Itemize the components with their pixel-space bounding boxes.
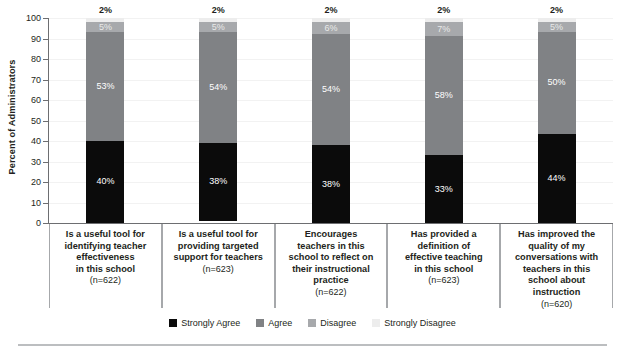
category-label-line: school to reflect on: [279, 252, 384, 264]
bar-segment[interactable]: 44%: [538, 134, 576, 223]
y-tick-label: 40: [31, 136, 41, 146]
y-tick-label: 60: [31, 95, 41, 105]
bar-segment[interactable]: 53%: [86, 32, 124, 141]
category-label-line: their instructional: [279, 264, 384, 276]
category-sample-size: (n=622): [53, 275, 158, 287]
category-label-line: practice: [279, 275, 384, 287]
bar-segment-label: 5%: [550, 23, 563, 32]
category-label-line: Is a useful tool for: [53, 229, 158, 241]
bar-segment-label: 40%: [96, 177, 114, 186]
bar-segment[interactable]: 54%: [312, 34, 350, 145]
y-tick-mark: [43, 203, 48, 204]
bar-segment-label: 2%: [437, 5, 450, 15]
y-tick-mark: [43, 223, 48, 224]
category-label-cell: Has provided adefinition ofeffective tea…: [387, 224, 500, 308]
legend-item[interactable]: Disagree: [308, 318, 356, 328]
category-label-line: in this school: [391, 264, 496, 276]
bar-segment-label: 2%: [99, 5, 112, 15]
bar-segment-label: 44%: [548, 174, 566, 183]
bar-segment-label: 38%: [322, 180, 340, 189]
stacked-bar[interactable]: 2%6%54%38%: [312, 18, 350, 223]
bar-segment-label: 38%: [209, 177, 227, 186]
category-label-line: Has provided a: [391, 229, 496, 241]
bar-segment-label: 6%: [324, 24, 337, 33]
bar-group: 2%5%53%40%: [49, 18, 162, 223]
chart-legend: Strongly AgreeAgreeDisagreeStrongly Disa…: [0, 318, 625, 328]
bar-segment[interactable]: 7%: [425, 22, 463, 36]
stacked-bar[interactable]: 2%5%54%38%: [199, 18, 237, 223]
category-label-line: Has improved the: [504, 229, 609, 241]
category-label-line: teachers in this: [279, 241, 384, 253]
bar-segment[interactable]: 38%: [199, 143, 237, 221]
bar-segment-label: 5%: [99, 23, 112, 32]
category-label-line: Is a useful tool for: [166, 229, 271, 241]
legend-swatch-icon: [256, 319, 264, 327]
y-tick-mark: [43, 121, 48, 122]
category-label-line: identifying teacher: [53, 241, 158, 253]
legend-item[interactable]: Strongly Disagree: [372, 318, 456, 328]
bar-segment-label: 54%: [322, 85, 340, 94]
category-sample-size: (n=620): [504, 299, 609, 311]
bar-segment[interactable]: 50%: [538, 32, 576, 134]
y-tick-mark: [43, 182, 48, 183]
bar-segment[interactable]: 40%: [86, 141, 124, 223]
legend-swatch-icon: [169, 319, 177, 327]
category-label-line: effective teaching: [391, 252, 496, 264]
bar-segment-label: 5%: [212, 23, 225, 32]
category-label-line: teachers in this: [504, 264, 609, 276]
bar-segment[interactable]: 54%: [199, 32, 237, 143]
category-label-cell: Has improved thequality of myconversatio…: [500, 224, 613, 308]
bar-segment[interactable]: 5%: [538, 22, 576, 32]
legend-item[interactable]: Agree: [256, 318, 292, 328]
y-tick-label: 30: [31, 157, 41, 167]
y-tick-mark: [43, 141, 48, 142]
bar-group: 2%5%50%44%: [500, 18, 613, 223]
category-sample-size: (n=622): [279, 287, 384, 299]
y-tick-label: 50: [31, 116, 41, 126]
bar-group: 2%7%58%33%: [387, 18, 500, 223]
y-tick-mark: [43, 59, 48, 60]
bar-segment[interactable]: 58%: [425, 36, 463, 155]
y-tick-mark: [43, 80, 48, 81]
legend-label: Strongly Agree: [181, 318, 240, 328]
y-tick-label: 70: [31, 75, 41, 85]
category-label-cell: Is a useful tool forproviding targetedsu…: [162, 224, 275, 308]
y-tick-mark: [43, 18, 48, 19]
stacked-bar-chart: Percent of Administrators 01020304050607…: [0, 0, 625, 356]
bar-segment[interactable]: 5%: [86, 22, 124, 32]
stacked-bar[interactable]: 2%5%50%44%: [538, 18, 576, 223]
category-sample-size: (n=623): [166, 264, 271, 276]
category-label-line: effectiveness: [53, 252, 158, 264]
y-tick-label: 90: [31, 34, 41, 44]
legend-item[interactable]: Strongly Agree: [169, 318, 240, 328]
category-label-line: in this school: [53, 264, 158, 276]
bar-group: 2%6%54%38%: [275, 18, 388, 223]
category-label-line: quality of my: [504, 241, 609, 253]
bar-segment-label: 58%: [435, 91, 453, 100]
category-label-cell: Encouragesteachers in thisschool to refl…: [275, 224, 388, 308]
category-label-line: instruction: [504, 287, 609, 299]
y-tick-label: 0: [36, 218, 41, 228]
category-label-line: conversations with: [504, 252, 609, 264]
category-labels: Is a useful tool foridentifying teachere…: [49, 224, 613, 308]
category-label-cell: Is a useful tool foridentifying teachere…: [49, 224, 162, 308]
stacked-bar[interactable]: 2%7%58%33%: [425, 18, 463, 223]
legend-swatch-icon: [372, 319, 380, 327]
bar-segment[interactable]: 5%: [199, 22, 237, 32]
bar-segment-label: 7%: [437, 25, 450, 34]
bar-segment[interactable]: 6%: [312, 22, 350, 34]
y-tick-label: 10: [31, 198, 41, 208]
category-label-line: Encourages: [279, 229, 384, 241]
stacked-bar[interactable]: 2%5%53%40%: [86, 18, 124, 223]
legend-label: Agree: [268, 318, 292, 328]
category-label-line: school about: [504, 275, 609, 287]
footer-divider: [18, 344, 607, 346]
legend-label: Strongly Disagree: [384, 318, 456, 328]
bar-segment-label: 2%: [550, 5, 563, 15]
category-label-line: providing targeted: [166, 241, 271, 253]
bar-segment[interactable]: 33%: [425, 155, 463, 223]
y-tick-label: 100: [26, 13, 41, 23]
y-axis-title: Percent of Administrators: [7, 37, 17, 197]
bar-group: 2%5%54%38%: [162, 18, 275, 223]
bar-segment[interactable]: 38%: [312, 145, 350, 223]
